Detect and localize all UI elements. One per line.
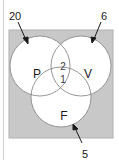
venn-diagram: P V F 2 1 20 6 5: [0, 0, 119, 160]
callout-outside-top-left: 20: [9, 10, 21, 22]
callout-outside-top-right: 6: [101, 10, 107, 22]
set-label-v: V: [84, 67, 92, 81]
callout-outside-bottom: 5: [82, 148, 88, 160]
set-label-f: F: [60, 109, 67, 123]
set-label-p: P: [33, 67, 41, 81]
region-p-v-value: 2: [60, 61, 66, 72]
region-p-v-f-value: 1: [60, 74, 66, 85]
